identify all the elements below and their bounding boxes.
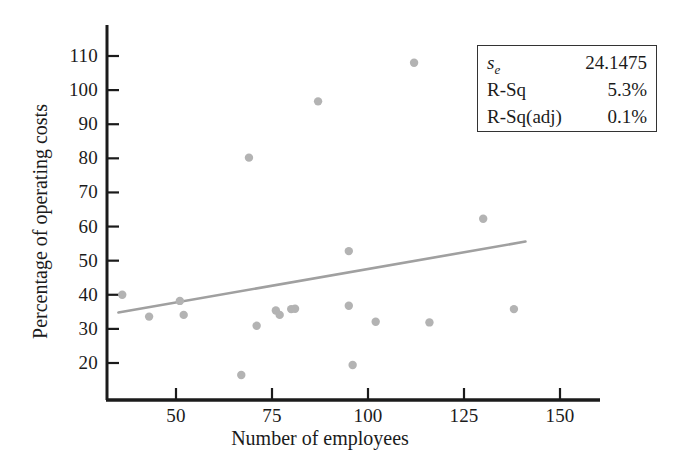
- x-tick-label: 150: [525, 406, 595, 425]
- regression-statistics-box: se24.1475R-Sq5.3%R-Sq(adj)0.1%: [477, 45, 657, 132]
- data-point: [510, 305, 518, 313]
- stats-label-subscript: e: [494, 62, 500, 77]
- data-point: [348, 361, 356, 369]
- data-point: [237, 371, 245, 379]
- stats-value: 24.1475: [585, 49, 647, 76]
- scatter-plot-figure: 1101009080706050403020 5075100125150 Num…: [0, 0, 685, 471]
- stats-value: 5.3%: [607, 76, 647, 103]
- data-point: [410, 59, 418, 67]
- data-point: [275, 311, 283, 319]
- data-point: [245, 153, 253, 161]
- x-axis-title: Number of employees: [0, 427, 640, 450]
- stats-label: se: [487, 49, 500, 76]
- stats-label: R-Sq: [487, 76, 526, 103]
- data-points: [118, 59, 518, 380]
- data-point: [345, 301, 353, 309]
- data-point: [314, 97, 322, 105]
- data-point: [252, 322, 260, 330]
- x-tick-label: 125: [429, 406, 499, 425]
- data-point: [479, 215, 487, 223]
- x-tick-label: 100: [333, 406, 403, 425]
- stats-row: se24.1475: [487, 49, 647, 76]
- stats-row: R-Sq5.3%: [487, 76, 647, 103]
- data-point: [371, 318, 379, 326]
- data-point: [345, 247, 353, 255]
- data-point: [291, 305, 299, 313]
- data-point: [425, 318, 433, 326]
- stats-label: R-Sq(adj): [487, 103, 562, 130]
- data-point: [176, 297, 184, 305]
- data-point: [145, 312, 153, 320]
- x-tick-label: 50: [141, 406, 211, 425]
- stats-value: 0.1%: [607, 103, 647, 130]
- data-point: [118, 291, 126, 299]
- data-point: [179, 311, 187, 319]
- y-axis-title: Percentage of operating costs: [29, 52, 52, 392]
- x-tick-label: 75: [237, 406, 307, 425]
- stats-row: R-Sq(adj)0.1%: [487, 103, 647, 130]
